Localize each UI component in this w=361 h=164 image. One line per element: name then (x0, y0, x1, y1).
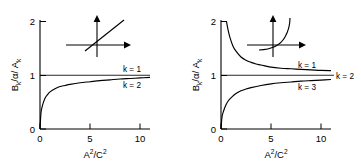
inset-x-arrow-right-icon (299, 42, 306, 49)
x-ticklabel-0-right: 0 (218, 133, 223, 144)
figure-container: 2 1 0 0 5 10 A2/C2 Bk/α/ Ak k = 1 k = 2 (0, 0, 361, 164)
y-ticklabel-1-left: 1 (30, 70, 35, 81)
x-ticklabel-5-right: 5 (268, 133, 273, 144)
inset-y-arrow-left-icon (94, 15, 101, 22)
y-axis-label-right-asub: k (196, 58, 203, 62)
inset-diagram-right (247, 15, 306, 57)
y-axis-label-left: Bk/α/ Ak (9, 58, 22, 91)
x-axis-label-right-sup2: 2 (284, 148, 288, 155)
x-axis-label-left-sup2: 2 (103, 148, 107, 155)
curve-label-k1-left: k = 1 (123, 65, 141, 74)
x-axis-label-left: A2/C2 (83, 148, 107, 160)
x-axis-label-right: A2/C2 (264, 148, 288, 160)
curve-label-k2-right: k = 2 (336, 72, 354, 81)
x-ticklabel-10-right: 10 (316, 133, 327, 144)
curve-label-k1-right: k = 1 (298, 61, 316, 70)
y-ticklabel-2-left: 2 (30, 16, 35, 27)
x-ticklabel-10-left: 10 (135, 133, 146, 144)
y-ticklabel-0-left: 0 (30, 124, 35, 135)
chart-svg-left: 2 1 0 0 5 10 A2/C2 Bk/α/ Ak k = 1 k = 2 (0, 0, 180, 164)
inset-y-arrow-right-icon (270, 15, 277, 22)
x-ticklabel-5-left: 5 (87, 133, 92, 144)
x-axis-label-right-div: /C (274, 149, 284, 160)
chart-panel-left: 2 1 0 0 5 10 A2/C2 Bk/α/ Ak k = 1 k = 2 (0, 0, 180, 164)
curve-label-k2-left: k = 2 (123, 81, 141, 90)
y-axis-label-left-a: / A (9, 61, 20, 73)
curve-label-k3-right: k = 3 (298, 83, 316, 92)
x-axis-label-left-div: /C (93, 149, 103, 160)
chart-panel-right: 2 1 0 0 5 10 A2/C2 Bk/α/ Ak k = 1 k = (181, 0, 361, 164)
y-ticklabel-1-right: 1 (211, 70, 216, 81)
y-ticklabel-0-right: 0 (211, 124, 216, 135)
y-axis-label-right-a: / A (190, 61, 201, 73)
inset-x-arrow-left-icon (124, 42, 131, 49)
inset-diagram-left (66, 15, 131, 57)
x-ticklabel-0-left: 0 (37, 133, 42, 144)
chart-svg-right: 2 1 0 0 5 10 A2/C2 Bk/α/ Ak k = 1 k = (181, 0, 361, 164)
y-axis-label-right: Bk/α/ Ak (190, 58, 203, 91)
inset-linear-curve-left (85, 20, 124, 51)
y-ticklabel-2-right: 2 (211, 16, 216, 27)
y-axis-label-left-asub: k (15, 58, 22, 62)
